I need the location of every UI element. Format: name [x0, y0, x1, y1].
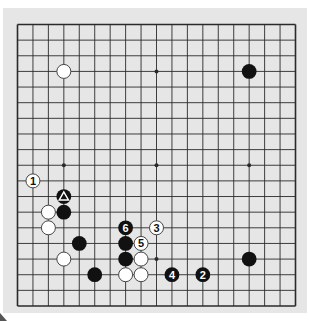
white-stone [134, 268, 148, 282]
black-stone-disc [242, 64, 257, 79]
black-stone-disc [56, 205, 71, 220]
black-stone: 2 [195, 267, 210, 282]
white-stone [57, 64, 71, 78]
black-stone [56, 189, 71, 204]
black-stone [118, 236, 133, 251]
black-stone [242, 252, 257, 267]
white-stone: 3 [150, 221, 164, 235]
white-stone-disc [119, 268, 133, 282]
page-corner-mark [0, 313, 7, 321]
white-stone-disc [41, 205, 55, 219]
move-number-label: 1 [30, 175, 36, 187]
black-stone-disc [118, 236, 133, 251]
go-board: 165342 [0, 0, 309, 321]
move-number-label: 2 [200, 269, 206, 281]
star-point [247, 163, 251, 167]
black-stone-disc [72, 236, 87, 251]
white-stone: 5 [134, 236, 148, 250]
move-number-label: 6 [123, 222, 129, 234]
move-number-label: 5 [138, 237, 144, 249]
black-stone: 6 [118, 220, 133, 235]
black-stone-disc [118, 252, 133, 267]
black-stone [56, 205, 71, 220]
white-stone [57, 252, 71, 266]
star-point [155, 257, 159, 261]
white-stone-disc [57, 252, 71, 266]
move-number-label: 4 [169, 269, 176, 281]
black-stone-disc [87, 267, 102, 282]
black-stone [87, 267, 102, 282]
white-stone [134, 252, 148, 266]
white-stone-disc [41, 221, 55, 235]
white-stone-disc [57, 64, 71, 78]
star-point [62, 163, 66, 167]
black-stone [118, 252, 133, 267]
white-stone [119, 268, 133, 282]
white-stone [41, 205, 55, 219]
white-stone-disc [134, 268, 148, 282]
move-number-label: 3 [153, 222, 159, 234]
black-stone: 4 [165, 267, 180, 282]
white-stone-disc [134, 252, 148, 266]
black-stone [242, 64, 257, 79]
black-stone-disc [242, 252, 257, 267]
star-point [155, 163, 159, 167]
black-stone [72, 236, 87, 251]
go-board-diagram: 165342 [0, 0, 309, 321]
white-stone [41, 221, 55, 235]
white-stone: 1 [26, 174, 40, 188]
star-point [155, 69, 159, 73]
